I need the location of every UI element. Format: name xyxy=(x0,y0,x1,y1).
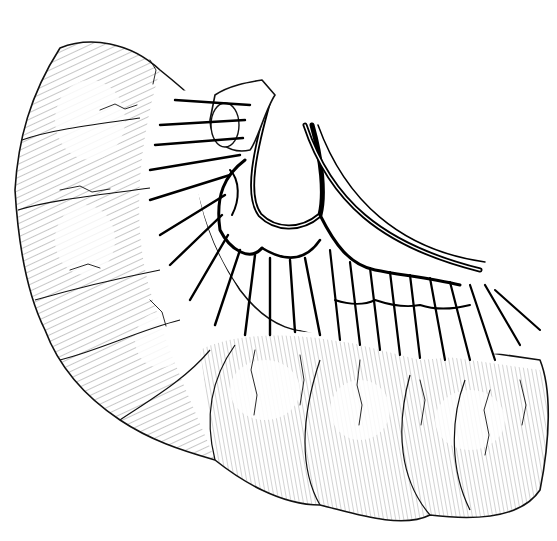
intestine-illustration xyxy=(0,0,557,541)
